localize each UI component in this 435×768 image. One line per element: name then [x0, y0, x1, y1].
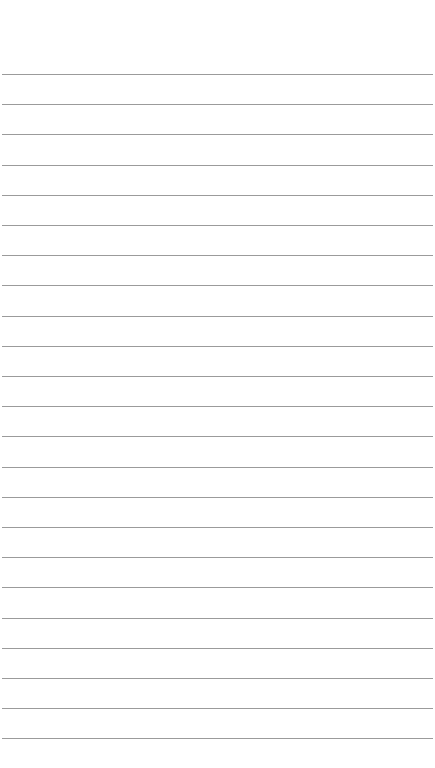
ruled-line [2, 165, 433, 166]
ruled-line [2, 74, 433, 75]
ruled-line [2, 436, 433, 437]
ruled-line [2, 255, 433, 256]
ruled-line [2, 678, 433, 679]
ruled-line [2, 195, 433, 196]
ruled-line [2, 618, 433, 619]
ruled-line [2, 346, 433, 347]
ruled-line [2, 406, 433, 407]
ruled-line [2, 708, 433, 709]
ruled-line [2, 527, 433, 528]
ruled-line [2, 738, 433, 739]
lined-paper-page [0, 0, 435, 768]
ruled-line [2, 376, 433, 377]
ruled-line [2, 587, 433, 588]
ruled-line [2, 104, 433, 105]
ruled-line [2, 467, 433, 468]
ruled-line [2, 497, 433, 498]
ruled-line [2, 134, 433, 135]
ruled-line [2, 225, 433, 226]
ruled-line [2, 285, 433, 286]
ruled-line [2, 648, 433, 649]
ruled-line [2, 557, 433, 558]
ruled-line [2, 316, 433, 317]
